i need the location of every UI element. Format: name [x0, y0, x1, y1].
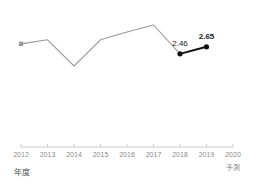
x-axis-tick-label-2018: 2018 [172, 151, 188, 158]
data-point-marker-2012 [19, 42, 23, 46]
series-line-actual [21, 25, 180, 66]
forecast-annotation: 予測 [226, 162, 240, 172]
x-axis-tick-label-2017: 2017 [146, 151, 162, 158]
data-label-2019: 2.65 [199, 32, 215, 41]
x-axis-tick-label-2016: 2016 [119, 151, 135, 158]
line-chart: 201220132014201520162017201820192020 2.4… [0, 0, 258, 184]
data-point-marker-2019 [204, 44, 209, 49]
x-axis-tick-label-2019: 2019 [199, 151, 215, 158]
x-axis-tick-label-2013: 2013 [40, 151, 56, 158]
x-axis-tick-label-2020: 2020 [225, 151, 241, 158]
x-axis-tick-label-2014: 2014 [66, 151, 82, 158]
x-axis-caption: 年度 [14, 166, 30, 177]
data-point-marker-2018 [177, 51, 182, 56]
x-axis-tick-label-2015: 2015 [93, 151, 109, 158]
x-axis-tick-label-2012: 2012 [13, 151, 29, 158]
series-line-highlight [180, 47, 207, 54]
data-label-2018: 2.46 [172, 39, 188, 48]
